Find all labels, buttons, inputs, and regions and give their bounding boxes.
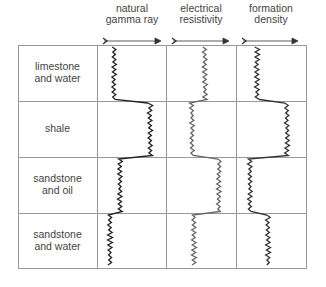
row-label-line1: sandstone	[18, 172, 97, 184]
gamma-ray-trace	[108, 47, 153, 265]
row-label-sandstone-water: sandstone and water	[18, 228, 97, 252]
row-label-line2: and oil	[18, 184, 97, 196]
row-label-line2: and water	[18, 240, 97, 252]
row-label-limestone-water: limestone and water	[18, 60, 97, 84]
row-label-line1: sandstone	[18, 228, 97, 240]
arrow-icon-density	[242, 38, 298, 44]
density-trace	[248, 47, 290, 265]
row-label-line1: shale	[18, 122, 97, 134]
arrow-icon-resistivity	[172, 38, 229, 44]
arrow-icon-gamma	[103, 38, 161, 44]
row-label-shale: shale	[18, 122, 97, 134]
row-label-sandstone-oil: sandstone and oil	[18, 172, 97, 196]
row-label-line2: and water	[18, 72, 97, 84]
resistivity-trace	[190, 47, 222, 265]
row-label-line1: limestone	[18, 60, 97, 72]
